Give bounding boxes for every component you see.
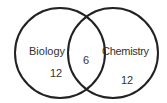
- biology-label: Biology: [29, 45, 65, 57]
- chemistry-label: Chemistry: [102, 45, 149, 57]
- biology-only-count: 12: [50, 67, 62, 79]
- intersection-count: 6: [83, 54, 89, 66]
- chemistry-only-count: 12: [121, 74, 133, 86]
